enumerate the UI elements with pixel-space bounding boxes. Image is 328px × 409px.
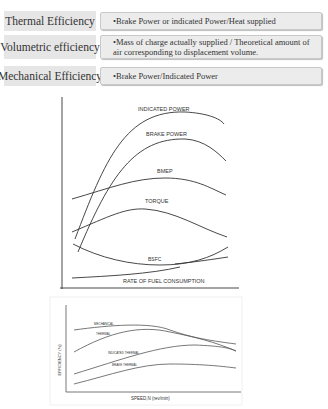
curve-fuel-rate bbox=[72, 267, 180, 278]
label-bmep: BMEP bbox=[157, 168, 173, 174]
eff-x-axis-label: SPEED,N (rev/min) bbox=[131, 396, 170, 401]
efficiency-chart-frame bbox=[50, 297, 242, 405]
label-mechanical: MECHANICAL bbox=[94, 322, 114, 326]
label-torque: TORQUE bbox=[145, 198, 169, 204]
curve-bsfc-2 bbox=[175, 257, 228, 264]
label-brake-power: BRAKE POWER bbox=[146, 131, 187, 137]
label-indicated-thermal: INDICATED THERMAL bbox=[108, 351, 139, 355]
label-thermal: THERMAL bbox=[96, 332, 111, 336]
label-bsfc: BSFC bbox=[148, 256, 162, 262]
label-brake-thermal: BRAKE THERMAL bbox=[112, 363, 138, 367]
label-indicated-power: INDICATED POWER bbox=[138, 106, 190, 112]
label-fuel-rate: RATE OF FUEL CONSUMPTION bbox=[123, 278, 205, 284]
curve-indicated-thermal bbox=[74, 345, 236, 374]
curve-brake-power bbox=[78, 139, 226, 252]
eff-y-axis-label: EFFICIENCY (%) bbox=[57, 344, 62, 376]
engine-performance-chart: INDICATED POWER BRAKE POWER BMEP TORQUE … bbox=[0, 0, 328, 409]
curve-brake-thermal bbox=[74, 364, 236, 384]
